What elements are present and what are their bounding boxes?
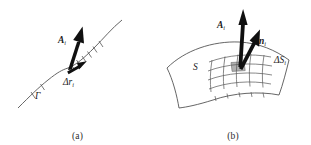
panel-b-caption: (b): [155, 131, 311, 141]
vector-a-label: Ai: [216, 20, 225, 31]
panel-b-surface-integral: Ai ni S ΔSi (b): [155, 0, 311, 145]
vector-a-label: Ai: [57, 35, 66, 46]
curve-gamma-label: Γ: [34, 91, 41, 101]
panel-a-line-integral: Ai Δri Γ (a): [0, 0, 155, 145]
normal-vector-n-label: ni: [259, 36, 266, 47]
panel-a-caption: (a): [0, 131, 155, 141]
panel-b-drawing: Ai ni S ΔSi: [155, 0, 311, 115]
segment-delta-r-label: Δri: [62, 77, 74, 88]
surface-s-label: S: [193, 62, 198, 72]
panel-a-drawing: Ai Δri Γ: [0, 0, 155, 115]
figure-root: Ai Δri Γ (a): [0, 0, 311, 145]
